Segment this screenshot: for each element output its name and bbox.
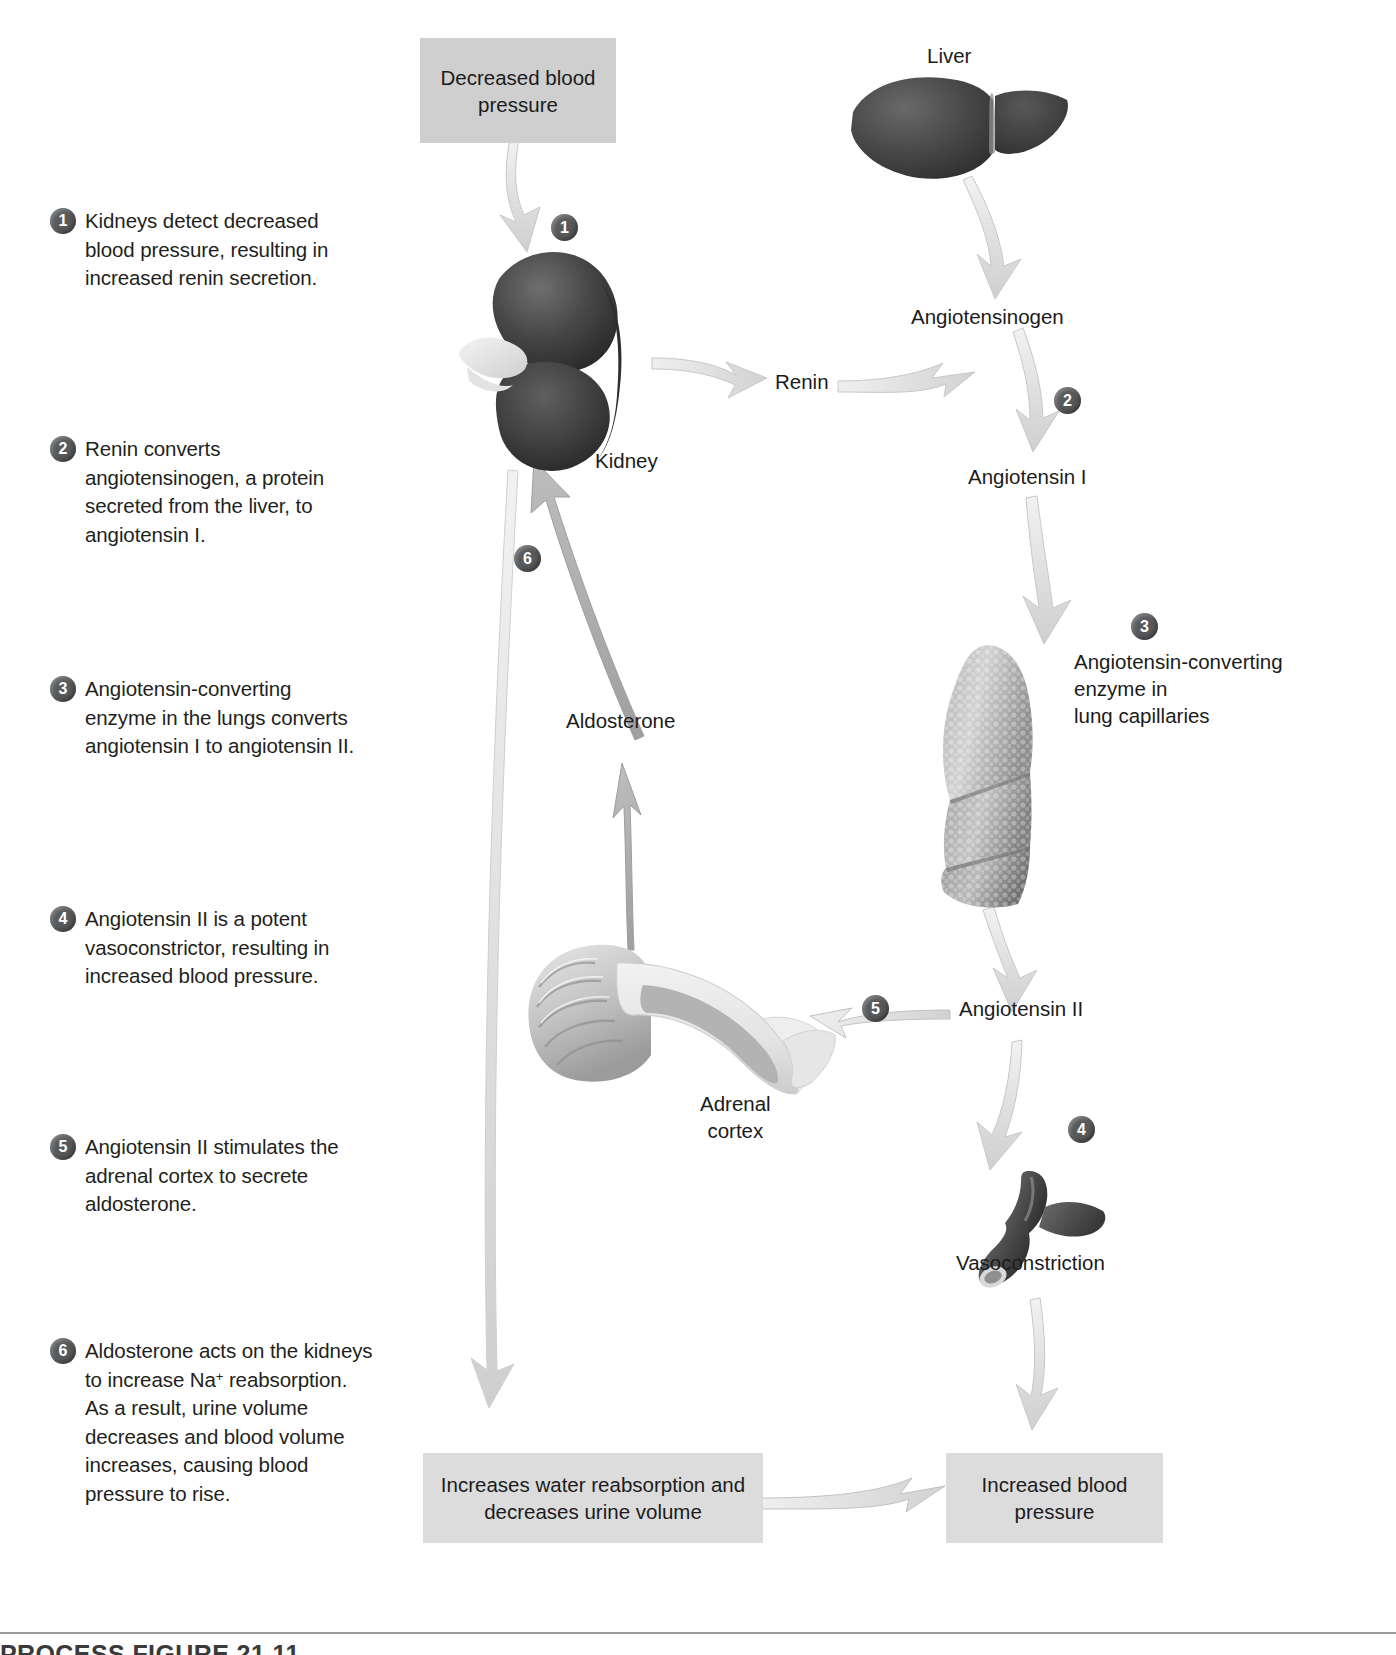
- angiotensin-ii-label: Angiotensin II: [959, 995, 1083, 1022]
- arrow-renin-to-angiotensin-i: [838, 363, 975, 397]
- step-3: 3 Angiotensin-converting enzyme in the l…: [50, 675, 360, 761]
- kidney-label: Kidney: [595, 447, 658, 474]
- step-5-text: Angiotensin II stimulates the adrenal co…: [85, 1133, 360, 1219]
- diagram-number-1: 1: [551, 214, 578, 241]
- step-6-badge: 6: [50, 1338, 76, 1364]
- step-2-badge: 2: [50, 436, 76, 462]
- step-5: 5 Angiotensin II stimulates the adrenal …: [50, 1133, 360, 1219]
- arrow-angiotensinogen-to-angiotensin-i: [1013, 328, 1059, 452]
- increased-blood-pressure-box: Increased blood pressure: [946, 1453, 1163, 1543]
- diagram-number-5: 5: [862, 995, 889, 1022]
- diagram-number-3: 3: [1131, 613, 1158, 640]
- vasoconstriction-label: Vasoconstriction: [956, 1249, 1105, 1276]
- arrow-kidney-to-renin: [652, 358, 767, 398]
- arrow-kidney-to-increases-water: [471, 470, 518, 1408]
- arrow-bp-to-kidney: [500, 138, 540, 252]
- lung-illustration: [930, 640, 1080, 915]
- arrow-adrenal-to-aldosterone: [613, 763, 641, 950]
- step-4-badge: 4: [50, 906, 76, 932]
- step-2-text: Renin converts angiotensinogen, a protei…: [85, 435, 360, 549]
- increases-water-reabsorption-box: Increases water reabsorption and decreas…: [423, 1453, 763, 1543]
- step-1: 1 Kidneys detect decreased blood pressur…: [50, 207, 360, 293]
- diagram-number-2: 2: [1054, 387, 1081, 414]
- increased-blood-pressure-label: Increased blood pressure: [946, 1471, 1163, 1525]
- decreased-blood-pressure-label: Decreased blood pressure: [420, 64, 616, 118]
- step-6: 6 Aldosterone acts on the kidneys to inc…: [50, 1337, 375, 1508]
- arrow-aldosterone-to-kidney: [531, 460, 644, 740]
- aldosterone-label: Aldosterone: [566, 707, 675, 734]
- figure-caption: PROCESS FIGURE 21.11: [0, 1640, 600, 1655]
- arrow-angiotensin-i-to-lung: [1023, 496, 1071, 644]
- step-4: 4 Angiotensin II is a potent vasoconstri…: [50, 905, 360, 991]
- diagram-number-6: 6: [514, 545, 541, 572]
- angiotensin-i-label: Angiotensin I: [968, 463, 1087, 490]
- arrow-liver-to-angiotensinogen: [963, 176, 1021, 299]
- arrow-increases-water-to-increased-bp: [760, 1478, 945, 1512]
- step-4-text: Angiotensin II is a potent vasoconstrict…: [85, 905, 360, 991]
- figure-canvas: 1 Kidneys detect decreased blood pressur…: [0, 0, 1396, 1655]
- liver-illustration: [845, 60, 1075, 190]
- ace-lung-capillaries-label: Angiotensin-converting enzyme in lung ca…: [1074, 648, 1283, 729]
- step-5-badge: 5: [50, 1134, 76, 1160]
- step-2: 2 Renin converts angiotensinogen, a prot…: [50, 435, 360, 549]
- kidney-illustration: [455, 243, 655, 478]
- decreased-blood-pressure-box: Decreased blood pressure: [420, 38, 616, 143]
- step-3-text: Angiotensin-converting enzyme in the lun…: [85, 675, 360, 761]
- arrow-angiotensin-ii-to-vasoconstriction: [977, 1040, 1022, 1170]
- increases-water-reabsorption-label: Increases water reabsorption and decreas…: [423, 1471, 763, 1525]
- liver-label: Liver: [927, 42, 971, 69]
- step-1-badge: 1: [50, 208, 76, 234]
- adrenal-cortex-illustration: [525, 935, 845, 1100]
- angiotensinogen-label: Angiotensinogen: [911, 303, 1064, 330]
- footer-divider: [0, 1632, 1396, 1634]
- step-6-text: Aldosterone acts on the kidneys to incre…: [85, 1337, 375, 1508]
- arrow-vasoconstriction-to-increased-bp: [1016, 1298, 1058, 1430]
- step-3-badge: 3: [50, 676, 76, 702]
- adrenal-cortex-label: Adrenal cortex: [700, 1090, 771, 1144]
- renin-label: Renin: [775, 368, 829, 395]
- step-1-text: Kidneys detect decreased blood pressure,…: [85, 207, 360, 293]
- diagram-number-4: 4: [1068, 1116, 1095, 1143]
